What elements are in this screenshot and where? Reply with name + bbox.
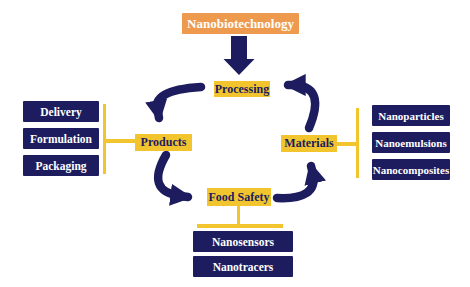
materials-box-nanoparticles: Nanoparticles [372,105,450,126]
cycle-label-food-safety: Food Safety [207,188,271,206]
cycle-label-materials: Materials [281,135,337,152]
bottom-vertical-line [237,206,241,224]
flow-arrow-down [224,36,255,75]
bottom-horizontal-line [197,224,283,228]
cycle-arrow-products-to-foodsafety [158,155,188,197]
title-box: Nanobiotechnology [182,13,299,34]
cycle-arrow-foodsafety-to-materials [277,166,314,198]
nanobiotechnology-diagram: Nanobiotechnology Processing Products Ma… [0,0,470,287]
cycle-label-products: Products [135,134,192,151]
title-text: Nanobiotechnology [187,16,294,32]
materials-box-nanocomposites: Nanocomposites [372,159,450,180]
materials-box-nanoemulsions: Nanoemulsions [372,132,450,153]
foodsafety-box-nanotracers: Nanotracers [193,256,293,277]
right-bracket-line [356,108,359,178]
left-horizontal-line [103,139,135,143]
products-box-delivery: Delivery [23,101,99,122]
products-box-formulation: Formulation [23,128,99,149]
foodsafety-box-nanosensors: Nanosensors [193,231,293,252]
cycle-arrow-materials-to-processing [288,85,315,128]
cycle-label-processing: Processing [214,81,270,97]
cycle-arrow-processing-to-products [157,87,201,118]
products-box-packaging: Packaging [23,155,99,176]
